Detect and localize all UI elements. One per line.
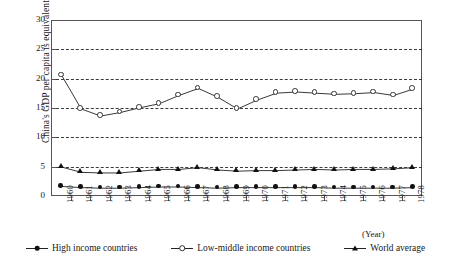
x-tick-label-1971: 1971 — [280, 169, 290, 203]
legend-label: High income countries — [52, 243, 137, 253]
data-point-0-1971 — [273, 184, 278, 189]
legend-item-0: High income countries — [26, 243, 137, 253]
x-tick-label-1978: 1978 — [416, 169, 426, 203]
data-point-2-1960 — [58, 163, 64, 168]
data-point-0-1964 — [137, 184, 142, 189]
x-tick-label-1966: 1966 — [182, 169, 192, 203]
data-point-2-1978 — [409, 164, 415, 169]
y-tick-label-30: 30 — [25, 15, 45, 24]
data-point-0-1961 — [78, 184, 83, 189]
y-tick-25 — [51, 49, 56, 50]
data-point-2-1969 — [233, 167, 239, 172]
gridline-10 — [51, 137, 422, 138]
y-tick-5 — [51, 167, 56, 168]
x-tick-label-1963: 1963 — [123, 169, 133, 203]
data-point-2-1965 — [155, 166, 161, 171]
y-tick-15 — [51, 108, 56, 109]
data-point-2-1970 — [253, 167, 259, 172]
y-tick-label-10: 10 — [25, 132, 45, 141]
data-point-2-1976 — [370, 166, 376, 171]
x-tick-label-1962: 1962 — [104, 169, 114, 203]
data-point-0-1967 — [195, 184, 200, 189]
y-tick-label-15: 15 — [25, 103, 45, 112]
data-point-2-1971 — [272, 167, 278, 172]
x-tick-label-1977: 1977 — [397, 169, 407, 203]
data-point-1-1966 — [175, 92, 181, 98]
gridline-25 — [51, 49, 422, 50]
data-point-0-1973 — [312, 184, 317, 189]
data-point-2-1977 — [390, 165, 396, 170]
x-tick-label-1967: 1967 — [201, 169, 211, 203]
x-tick-label-1960: 1960 — [65, 169, 75, 203]
chart-legend: High income countriesLow-middle income c… — [0, 243, 451, 253]
data-point-2-1963 — [116, 169, 122, 174]
data-point-1-1977 — [390, 92, 396, 98]
data-point-2-1967 — [194, 164, 200, 169]
data-point-2-1962 — [97, 169, 103, 174]
x-tick-label-1965: 1965 — [162, 169, 172, 203]
filled-triangle-marker — [344, 244, 366, 253]
data-point-2-1961 — [77, 168, 83, 173]
x-tick-label-1973: 1973 — [319, 169, 329, 203]
data-point-1-1978 — [409, 85, 415, 91]
y-tick-label-25: 25 — [25, 44, 45, 53]
data-point-2-1966 — [175, 166, 181, 171]
y-tick-label-5: 5 — [25, 162, 45, 171]
chart-figure: China's GDP per capita is equivalent to … — [0, 0, 451, 263]
legend-item-2: World average — [344, 243, 425, 253]
data-point-1-1974 — [331, 91, 337, 97]
data-point-2-1964 — [136, 167, 142, 172]
open-circle-marker-glyph — [180, 245, 186, 251]
data-point-2-1975 — [350, 166, 356, 171]
legend-item-1: Low-middle income countries — [171, 243, 310, 253]
data-point-1-1972 — [292, 88, 298, 94]
legend-label: Low-middle income countries — [197, 243, 310, 253]
x-tick-label-1961: 1961 — [84, 169, 94, 203]
data-point-1-1965 — [156, 100, 162, 106]
y-tick-20 — [51, 79, 56, 80]
x-tick-label-1974: 1974 — [338, 169, 348, 203]
x-tick-label-1975: 1975 — [358, 169, 368, 203]
filled-circle-marker-glyph — [35, 246, 40, 251]
data-point-0-1969 — [234, 184, 239, 189]
data-point-0-1965 — [156, 184, 161, 189]
x-tick-label-1969: 1969 — [241, 169, 251, 203]
y-tick-label-20: 20 — [25, 74, 45, 83]
x-axis-caption: (Year) — [362, 229, 385, 239]
data-point-2-1968 — [214, 166, 220, 171]
data-point-1-1964 — [136, 104, 142, 110]
data-point-2-1973 — [311, 166, 317, 171]
data-point-1-1968 — [214, 93, 220, 99]
data-point-1-1961 — [77, 105, 83, 111]
data-point-1-1970 — [253, 96, 259, 102]
x-tick-label-1968: 1968 — [221, 169, 231, 203]
y-tick-10 — [51, 137, 56, 138]
gridline-20 — [51, 79, 422, 80]
x-tick-label-1976: 1976 — [377, 169, 387, 203]
data-point-1-1962 — [97, 112, 103, 118]
x-tick-label-1970: 1970 — [260, 169, 270, 203]
legend-label: World average — [370, 243, 425, 253]
data-point-1-1975 — [351, 90, 357, 96]
x-tick-label-1964: 1964 — [143, 169, 153, 203]
data-point-0-1960 — [58, 183, 63, 188]
y-tick-label-0: 0 — [25, 191, 45, 200]
data-point-1-1969 — [234, 105, 240, 111]
x-tick-label-1972: 1972 — [299, 169, 309, 203]
open-circle-marker — [171, 244, 193, 253]
data-point-2-1972 — [292, 166, 298, 171]
filled-triangle-marker-glyph — [352, 246, 358, 251]
data-point-2-1974 — [331, 166, 337, 171]
filled-circle-marker — [26, 244, 48, 253]
data-point-1-1960 — [58, 72, 64, 78]
data-point-0-1978 — [410, 184, 415, 189]
